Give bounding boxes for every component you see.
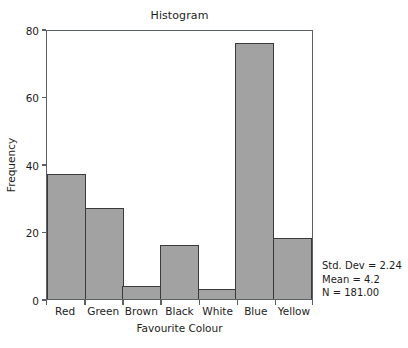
bar-black [160, 245, 199, 299]
x-tick-label-yellow: Yellow [275, 305, 313, 321]
bar-red [47, 174, 86, 299]
x-tick-label-brown: Brown [122, 305, 160, 321]
y-tick-label: 20 [26, 228, 39, 239]
bars-layer [47, 31, 312, 299]
y-tick-label: 60 [26, 93, 39, 104]
bar-blue [235, 43, 274, 300]
x-axis-title: Favourite Colour [46, 322, 313, 334]
stat-n: N = 181.00 [322, 286, 406, 300]
y-tick-label: 80 [26, 25, 39, 36]
statistics-annotation: Std. Dev = 2.24 Mean = 4.2 N = 181.00 [322, 259, 406, 300]
y-tick-label: 0 [32, 295, 39, 306]
y-tick-label: 40 [26, 160, 39, 171]
x-tick-label-red: Red [46, 305, 84, 321]
bar-yellow [273, 238, 312, 299]
plot-area [46, 30, 313, 300]
bar-white [198, 289, 237, 299]
stat-std-dev: Std. Dev = 2.24 [322, 259, 406, 273]
bar-brown [122, 286, 161, 300]
histogram-figure: Histogram Frequency 020406080 RedGreenBr… [0, 0, 408, 348]
x-tick-label-black: Black [160, 305, 198, 321]
bar-green [85, 208, 124, 299]
y-axis-tick-group: 020406080 [0, 30, 46, 300]
x-axis-tick-labels: RedGreenBrownBlackWhiteBlueYellow [46, 305, 313, 321]
x-tick-label-white: White [199, 305, 237, 321]
x-tick-label-green: Green [84, 305, 122, 321]
chart-title: Histogram [46, 9, 313, 22]
stat-mean: Mean = 4.2 [322, 273, 406, 287]
x-tick-label-blue: Blue [237, 305, 275, 321]
